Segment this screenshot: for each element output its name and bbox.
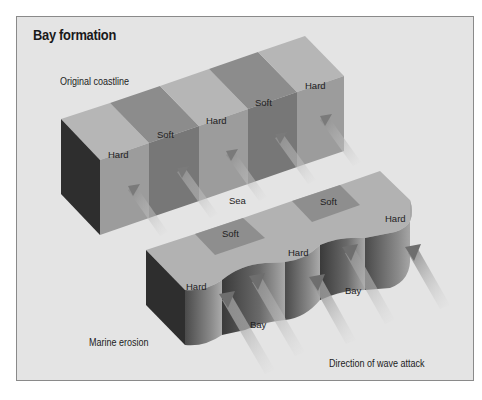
label-eroded-hard-1: Hard — [186, 281, 207, 292]
label-hard-1: Hard — [108, 149, 129, 160]
label-bay-1: Bay — [250, 319, 267, 330]
label-sea: Sea — [229, 195, 247, 206]
caption-direction-of-wave-attack: Direction of wave attack — [329, 358, 425, 369]
label-soft-1: Soft — [157, 129, 174, 140]
label-soft-2: Soft — [255, 97, 272, 108]
label-eroded-soft-1: Soft — [222, 228, 239, 239]
caption-marine-erosion: Marine erosion — [89, 337, 149, 348]
diagram-title: Bay formation — [33, 27, 116, 43]
label-bay-2: Bay — [345, 285, 362, 296]
caption-original-coastline: Original coastline — [60, 76, 129, 87]
label-eroded-soft-2: Soft — [320, 196, 337, 207]
bay-formation-diagram: Hard Soft Hard Soft Hard Hard Soft Hard … — [0, 0, 482, 400]
label-hard-2: Hard — [206, 115, 227, 126]
label-hard-3: Hard — [305, 80, 326, 91]
label-eroded-hard-2: Hard — [288, 247, 309, 258]
label-eroded-hard-3: Hard — [385, 213, 406, 224]
